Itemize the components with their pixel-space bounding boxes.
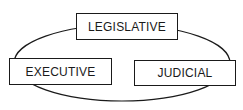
branches-of-government-diagram: LEGISLATIVE EXECUTIVE JUDICIAL [0, 0, 243, 110]
executive-box: EXECUTIVE [9, 58, 112, 85]
executive-label: EXECUTIVE [26, 65, 96, 79]
judicial-label: JUDICIAL [158, 66, 213, 80]
legislative-label: LEGISLATIVE [88, 20, 166, 34]
judicial-box: JUDICIAL [134, 60, 236, 86]
legislative-box: LEGISLATIVE [76, 13, 178, 40]
